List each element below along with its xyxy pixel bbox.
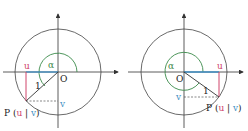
radius-line: [184, 72, 219, 97]
radius-line: [26, 72, 58, 101]
radius-label: 1: [35, 81, 41, 91]
u-label: u: [24, 61, 30, 71]
radius-label: 1: [203, 86, 209, 96]
v-label: v: [175, 92, 182, 102]
origin-label: O: [176, 74, 183, 84]
diagram-left: α O u v 1 P (u | v): [3, 14, 118, 128]
u-label: u: [217, 61, 223, 71]
point-label: P (u | v): [206, 103, 242, 114]
origin-label: O: [60, 74, 67, 84]
unit-circle-diagrams: α O u v 1 P (u | v) α O u v 1 P (u | v): [0, 0, 248, 131]
alpha-label: α: [168, 61, 174, 71]
v-label: v: [59, 99, 66, 109]
alpha-label: α: [48, 60, 54, 70]
point-label: P (u | v): [4, 108, 40, 119]
diagram-right: α O u v 1 P (u | v): [128, 14, 243, 128]
